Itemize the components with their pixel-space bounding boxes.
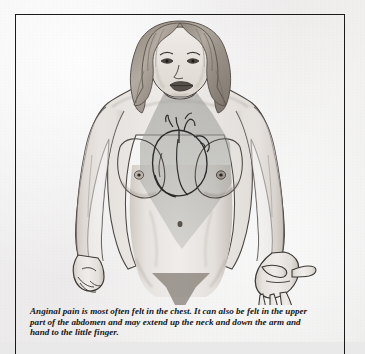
medical-illustration	[16, 15, 344, 305]
navel	[178, 221, 183, 227]
finger-middle	[280, 292, 293, 305]
figure-caption: Anginal pain is most often felt in the c…	[30, 306, 320, 338]
body-diagram-svg	[16, 15, 344, 305]
left-hand	[255, 252, 316, 305]
figure-body	[71, 21, 316, 305]
right-hand	[73, 255, 104, 292]
